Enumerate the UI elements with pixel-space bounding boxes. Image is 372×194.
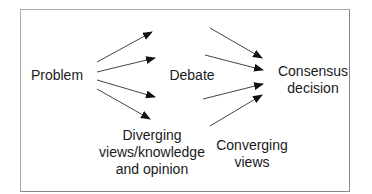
consensus-line-1: Consensus: [278, 63, 348, 80]
diverging-line-1: Diverging: [99, 127, 205, 144]
consensus-decision-label: Consensus decision: [278, 63, 348, 97]
diverging-views-label: Diverging views/knowledge and opinion: [99, 127, 205, 178]
converging-line-2: views: [216, 154, 288, 171]
diverging-arrow-1: [97, 32, 152, 62]
diverging-line-2: views/knowledge: [99, 144, 205, 161]
consensus-line-2: decision: [278, 80, 348, 97]
diverging-line-3: and opinion: [99, 161, 205, 178]
converging-arrow-3: [203, 84, 263, 99]
converging-arrow-1: [210, 28, 262, 58]
debate-label: Debate: [169, 67, 214, 84]
diverging-arrow-2: [97, 58, 155, 72]
converging-line-1: Converging: [216, 137, 288, 154]
problem-label: Problem: [31, 67, 83, 84]
converging-views-label: Converging views: [216, 137, 288, 171]
converging-arrow-4: [210, 95, 262, 126]
